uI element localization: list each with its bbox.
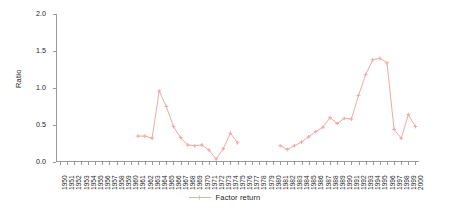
legend-line-marker-icon <box>189 194 211 202</box>
x-tick-label: 1969 <box>197 175 204 190</box>
legend-entry-label: Factor return <box>216 193 261 202</box>
data-point-marker <box>278 144 282 148</box>
factor-return-line-chart: Ratio 0.00.51.01.52.0 195019511952195319… <box>0 0 449 212</box>
data-point-marker <box>293 144 297 148</box>
y-tick-mark <box>53 14 56 15</box>
data-point-marker <box>371 58 375 62</box>
x-tick-label: 1952 <box>76 175 83 190</box>
y-tick-mark <box>53 162 56 163</box>
data-point-marker <box>349 117 353 121</box>
y-tick-mark <box>53 88 56 89</box>
data-point-marker <box>193 144 197 148</box>
data-point-marker <box>136 134 140 138</box>
y-tick-label: 0.5 <box>24 121 46 128</box>
y-tick-label: 1.0 <box>24 84 46 91</box>
series-layer <box>56 14 419 162</box>
x-tick-label: 2000 <box>418 175 425 190</box>
data-point-marker <box>150 136 154 140</box>
y-tick-label: 1.5 <box>24 47 46 54</box>
data-point-marker <box>364 73 368 77</box>
y-tick-mark <box>53 125 56 126</box>
data-point-marker <box>143 134 147 138</box>
chart-legend: Factor return <box>0 193 449 202</box>
y-tick-label: 0.0 <box>24 158 46 165</box>
data-point-marker <box>357 94 361 98</box>
y-tick-mark <box>53 51 56 52</box>
series-factor-return <box>136 57 417 161</box>
y-axis-tick-labels: 0.00.51.01.52.0 <box>20 0 46 212</box>
plot-area <box>56 14 419 162</box>
series-line <box>280 58 415 149</box>
data-point-marker <box>285 148 289 152</box>
x-tick-label: 1986 <box>318 175 325 190</box>
data-point-marker <box>157 89 161 93</box>
data-point-marker <box>164 105 168 109</box>
y-tick-label: 2.0 <box>24 10 46 17</box>
